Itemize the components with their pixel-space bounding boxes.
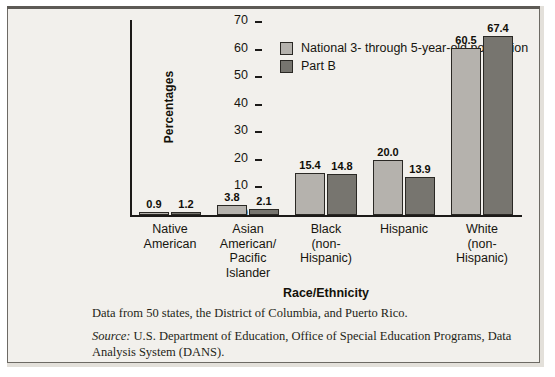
- bar-value-label: 1.2: [178, 198, 193, 210]
- bar-group: 0.91.2Native American: [131, 22, 209, 215]
- bar-rect[interactable]: [483, 36, 513, 215]
- bar-value-label: 14.8: [331, 160, 352, 172]
- bar-value-label: 0.9: [146, 198, 161, 210]
- bar-group: 60.567.4White (non- Hispanic): [443, 22, 521, 215]
- bar-value-label: 3.8: [224, 191, 239, 203]
- footnotes: Data from 50 states, the District of Col…: [92, 305, 512, 367]
- bar-value-label: 15.4: [299, 159, 320, 171]
- bar-item[interactable]: 13.9: [405, 22, 435, 215]
- bar-rect[interactable]: [451, 48, 481, 215]
- bar-rect[interactable]: [405, 177, 435, 215]
- x-axis-category-label: White (non- Hispanic): [443, 222, 521, 266]
- plot-area: 706050403020100 Percentages National 3- …: [131, 22, 521, 215]
- bar-value-label: 13.9: [409, 163, 430, 175]
- bar-item[interactable]: 15.4: [295, 22, 325, 215]
- bar-item[interactable]: 67.4: [483, 22, 513, 215]
- bar-item[interactable]: 1.2: [171, 22, 201, 215]
- bar-item[interactable]: 2.1: [249, 22, 279, 215]
- bar-item[interactable]: 60.5: [451, 22, 481, 215]
- bar-item[interactable]: 0.9: [139, 22, 169, 215]
- bar-value-label: 20.0: [377, 146, 398, 158]
- x-axis-category-label: Asian American/ Pacific Islander: [209, 222, 287, 280]
- bar-item[interactable]: 14.8: [327, 22, 357, 215]
- bar-value-label: 60.5: [455, 34, 476, 46]
- bar-group: 3.82.1Asian American/ Pacific Islander: [209, 22, 287, 215]
- bar-rect[interactable]: [295, 173, 325, 215]
- bar-rect[interactable]: [373, 160, 403, 215]
- bar-rect[interactable]: [249, 209, 279, 215]
- footnote-source-word: Source:: [92, 329, 130, 343]
- bar-group-bars: 3.82.1: [209, 22, 287, 215]
- bar-item[interactable]: 20.0: [373, 22, 403, 215]
- bar-group-bars: 15.414.8: [287, 22, 365, 215]
- bar-value-label: 2.1: [256, 195, 271, 207]
- figure-container: 706050403020100 Percentages National 3- …: [0, 0, 555, 377]
- bar-group-bars: 60.567.4: [443, 22, 521, 215]
- bar-group-bars: 0.91.2: [131, 22, 209, 215]
- footnote-text: Data from 50 states, the District of Col…: [92, 306, 408, 320]
- x-axis-line: [130, 215, 522, 217]
- footnote: Source: U.S. Department of Education, Of…: [92, 328, 512, 361]
- footnote-text: U.S. Department of Education, Office of …: [92, 329, 511, 360]
- bar-group-bars: 20.013.9: [365, 22, 443, 215]
- x-axis-title: Race/Ethnicity: [131, 286, 521, 300]
- top-rule-divider: [7, 6, 540, 9]
- bar-group: 15.414.8Black (non- Hispanic): [287, 22, 365, 215]
- x-axis-category-label: Hispanic: [365, 222, 443, 237]
- bar-rect[interactable]: [171, 212, 201, 215]
- bar-rect[interactable]: [327, 174, 357, 215]
- bar-group: 20.013.9Hispanic: [365, 22, 443, 215]
- bar-value-label: 67.4: [487, 22, 508, 34]
- bar-item[interactable]: 3.8: [217, 22, 247, 215]
- footnote: Data from 50 states, the District of Col…: [92, 305, 512, 322]
- x-axis-category-label: Native American: [131, 222, 209, 251]
- bar-rect[interactable]: [217, 205, 247, 215]
- x-axis-category-label: Black (non- Hispanic): [287, 222, 365, 266]
- bar-rect[interactable]: [139, 212, 169, 215]
